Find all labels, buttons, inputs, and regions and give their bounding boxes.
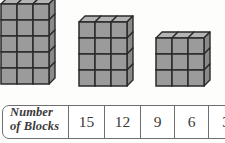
table-cell-value-1: 15 [69,106,105,138]
table-cell-value-5: 3 [209,106,225,138]
table-cell-value-3: 9 [141,106,175,138]
row-header-line-1: Number [10,106,53,120]
block-stack-12 [75,8,145,94]
table-cell-value-4: 6 [175,106,209,138]
table-cell-value-2: 12 [105,106,141,138]
row-header-line-2: of Blocks [10,120,59,134]
table-row: Number of Blocks 15 12 9 6 3 [2,105,225,139]
block-stacks-illustration [0,0,225,98]
number-of-blocks-table: Number of Blocks 15 12 9 6 3 [2,105,225,143]
worksheet-illustration: Number of Blocks 15 12 9 6 3 [0,0,225,143]
block-stack-9 [152,24,222,94]
block-stack-15 [0,0,67,94]
row-header-number-of-blocks: Number of Blocks [3,106,69,138]
